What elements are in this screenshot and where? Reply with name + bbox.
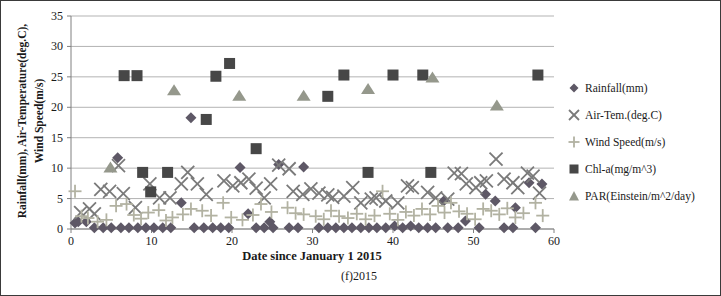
svg-text:40: 40 (387, 234, 399, 248)
y-axis-label: Rainfall(mm), Air-Temperature(deg.C), Wi… (14, 24, 47, 218)
chart-figure: 051015202530350102030405060 Rainfall(mm)… (0, 0, 721, 296)
legend-label: Rainfall(mm) (585, 82, 648, 94)
svg-text:0: 0 (68, 234, 74, 248)
svg-text:20: 20 (51, 100, 63, 114)
square-legend-icon (567, 162, 581, 176)
y-axis-label-line2: Wind Speed(m/s) (31, 24, 48, 218)
chart-legend: Rainfall(mm)Air-Tem.(deg.C)Wind Speed(m/… (567, 81, 719, 203)
svg-text:20: 20 (226, 234, 238, 248)
svg-text:25: 25 (51, 70, 63, 84)
legend-item[interactable]: Chl-a(mg/m^3) (567, 162, 719, 176)
diamond-legend-icon (567, 81, 581, 95)
plus-legend-icon (567, 135, 581, 149)
svg-text:10: 10 (146, 234, 158, 248)
figure-caption: (f)2015 (341, 269, 377, 284)
svg-text:10: 10 (51, 161, 63, 175)
svg-text:15: 15 (51, 131, 63, 145)
legend-label: Air-Tem.(deg.C) (585, 109, 662, 121)
legend-item[interactable]: Air-Tem.(deg.C) (567, 108, 719, 122)
legend-label: PAR(Einstein/m^2/day) (585, 190, 695, 202)
triangle-legend-icon (567, 189, 581, 203)
y-axis-label-line1: Rainfall(mm), Air-Temperature(deg.C), (14, 24, 31, 218)
svg-text:60: 60 (548, 234, 560, 248)
svg-text:35: 35 (51, 9, 63, 23)
legend-label: Chl-a(mg/m^3) (585, 163, 656, 175)
x-legend-icon (567, 108, 581, 122)
legend-item[interactable]: PAR(Einstein/m^2/day) (567, 189, 719, 203)
svg-text:0: 0 (57, 222, 63, 236)
svg-text:30: 30 (307, 234, 319, 248)
svg-text:5: 5 (57, 192, 63, 206)
svg-text:30: 30 (51, 39, 63, 53)
svg-text:50: 50 (468, 234, 480, 248)
legend-label: Wind Speed(m/s) (585, 136, 665, 148)
legend-item[interactable]: Rainfall(mm) (567, 81, 719, 95)
x-axis-label: Date since January 1 2015 (242, 249, 382, 264)
legend-item[interactable]: Wind Speed(m/s) (567, 135, 719, 149)
